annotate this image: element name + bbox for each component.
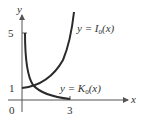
x-tick-label-0: 0 (9, 104, 15, 116)
y-tick-label-5: 5 (8, 27, 14, 39)
y-tick-label-1: 1 (9, 82, 15, 94)
x-axis-label: x (130, 93, 136, 105)
x-tick-label-3: 3 (67, 104, 73, 116)
y-axis-label: y (16, 3, 22, 15)
chart: y x 5 1 0 3 y = I0(x) y = K0(x) (0, 0, 145, 127)
label-K0: y = K0(x) (59, 82, 101, 96)
label-I0: y = I0(x) (76, 22, 115, 36)
